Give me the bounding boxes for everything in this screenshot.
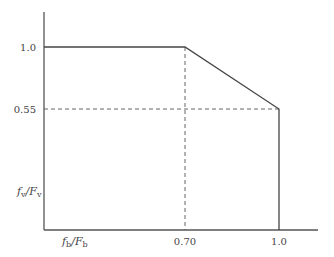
y-axis-label: fv/Fv — [16, 185, 42, 199]
xtick-070: 0.70 — [174, 236, 196, 247]
xtick-1: 1.0 — [271, 236, 287, 247]
chart: 1.0 0.55 0.70 1.0 fv/Fv fb/Fb — [0, 0, 334, 257]
x-axis-label: fb/Fb — [61, 235, 88, 249]
ytick-055: 0.55 — [14, 104, 36, 115]
ytick-1: 1.0 — [20, 42, 36, 53]
interaction-curve — [44, 47, 279, 230]
